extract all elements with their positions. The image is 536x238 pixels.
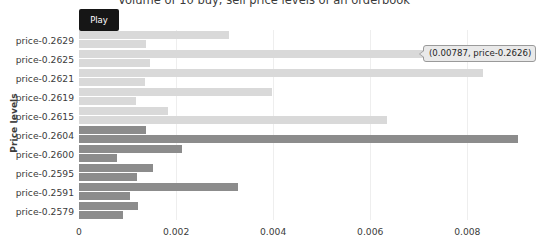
y-tick-label: price-0.2619	[0, 92, 74, 103]
x-tick-label: 0.008	[454, 226, 480, 237]
x-tick-label: 0.002	[163, 226, 189, 237]
y-tick-label: price-0.2604	[0, 130, 74, 141]
y-tick-label: price-0.2591	[0, 187, 74, 198]
y-tick-label: price-0.2600	[0, 149, 74, 160]
play-button[interactable]: Play	[79, 9, 119, 31]
chart-title: Volume of 10 buy, sell price levels of a…	[0, 0, 528, 7]
y-tick-label: price-0.2615	[0, 111, 74, 122]
y-tick-label: price-0.2629	[0, 35, 74, 46]
y-tick-label: price-0.2621	[0, 73, 74, 84]
x-tick-label: 0.006	[357, 226, 383, 237]
y-tick-label: price-0.2579	[0, 206, 74, 217]
hover-tooltip: (0.00787, price-0.2626)	[423, 45, 536, 62]
y-tick-label: price-0.2595	[0, 168, 74, 179]
x-tick-label: 0.004	[260, 226, 286, 237]
y-tick-label: price-0.2625	[0, 54, 74, 65]
x-tick-label: 0	[76, 226, 82, 237]
